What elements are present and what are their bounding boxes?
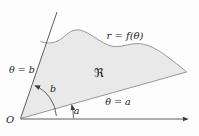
ray-a-label: θ = a xyxy=(105,96,131,107)
angle-b-label: b xyxy=(50,83,56,94)
polar-region-figure: θ = b θ = a r = f(θ) ℜ b a O xyxy=(0,0,199,136)
ray-b-label: θ = b xyxy=(9,64,35,75)
angle-a-label: a xyxy=(74,105,80,116)
curve-label: r = f(θ) xyxy=(106,30,143,41)
origin-label: O xyxy=(6,114,14,125)
figure-canvas: θ = b θ = a r = f(θ) ℜ b a O xyxy=(0,0,199,136)
region-label: ℜ xyxy=(94,66,104,80)
